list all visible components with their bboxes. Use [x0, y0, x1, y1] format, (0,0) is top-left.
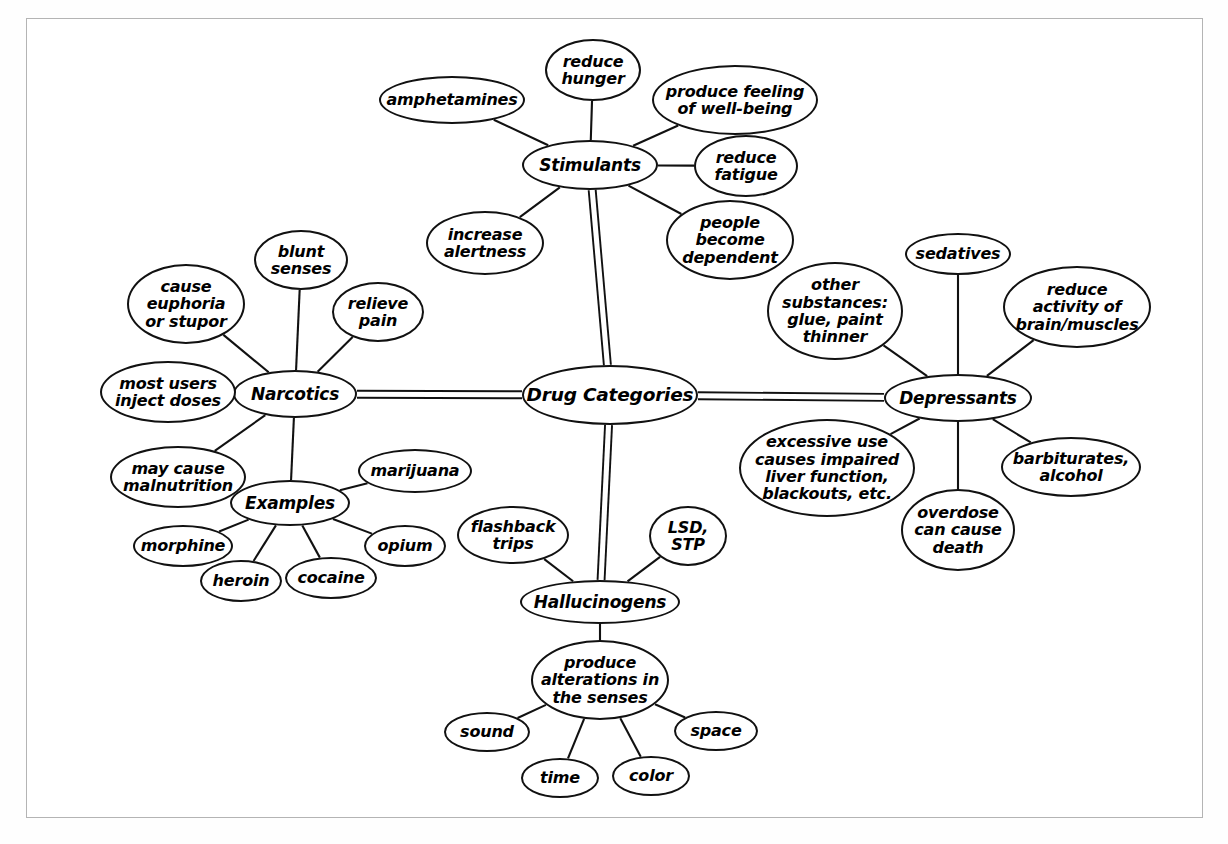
node-label: flashback trips — [471, 518, 556, 553]
node-label: amphetamines — [386, 91, 517, 108]
node-label: opium — [378, 537, 433, 554]
node-barbiturates-alcohol[interactable]: barbiturates, alcohol — [1001, 437, 1141, 497]
node-narcotics[interactable]: Narcotics — [233, 370, 357, 418]
node-label: may cause malnutrition — [123, 460, 233, 495]
node-marijuana[interactable]: marijuana — [358, 449, 472, 493]
node-label: sound — [460, 723, 514, 740]
node-cause-euphoria-or-stupor[interactable]: cause euphoria or stupor — [127, 264, 245, 344]
node-label: LSD, STP — [668, 519, 708, 554]
node-label: time — [540, 769, 580, 786]
node-label: Depressants — [899, 389, 1017, 407]
node-other-substances[interactable]: other substances: glue, paint thinner — [767, 262, 903, 360]
node-sedatives[interactable]: sedatives — [905, 233, 1011, 275]
node-label: Examples — [245, 494, 335, 512]
node-label: excessive use causes impaired liver func… — [755, 433, 899, 502]
node-overdose-can-cause-death[interactable]: overdose can cause death — [901, 489, 1015, 571]
node-label: cause euphoria or stupor — [145, 278, 227, 330]
node-examples[interactable]: Examples — [230, 480, 350, 526]
node-flashback-trips[interactable]: flashback trips — [457, 506, 569, 564]
node-time[interactable]: time — [521, 758, 599, 798]
node-sound[interactable]: sound — [444, 712, 530, 752]
node-stimulants[interactable]: Stimulants — [522, 140, 658, 190]
node-most-users-inject-doses[interactable]: most users inject doses — [100, 361, 236, 423]
node-reduce-hunger[interactable]: reduce hunger — [545, 39, 641, 101]
node-space[interactable]: space — [674, 711, 758, 751]
node-label: most users inject doses — [115, 375, 221, 410]
node-people-become-dependent[interactable]: people become dependent — [666, 200, 794, 280]
node-label: reduce fatigue — [714, 149, 777, 184]
node-label: reduce activity of brain/muscles — [1015, 281, 1138, 333]
node-label: sedatives — [916, 245, 1001, 262]
node-label: increase alertness — [444, 226, 526, 261]
node-label: Hallucinogens — [534, 593, 666, 611]
node-label: Narcotics — [251, 385, 339, 403]
node-label: produce feeling of well-being — [666, 83, 805, 118]
node-label: people become dependent — [682, 214, 778, 266]
node-label: Stimulants — [539, 156, 641, 174]
node-cocaine[interactable]: cocaine — [285, 557, 377, 599]
node-label: relieve pain — [348, 295, 408, 330]
node-produce-feeling-well-being[interactable]: produce feeling of well-being — [652, 65, 818, 135]
node-increase-alertness[interactable]: increase alertness — [426, 211, 544, 275]
node-label: marijuana — [371, 462, 460, 479]
node-lsd-stp[interactable]: LSD, STP — [649, 506, 727, 566]
node-color[interactable]: color — [612, 756, 690, 796]
diagram-canvas: Drug CategoriesStimulantsamphetaminesred… — [0, 0, 1228, 844]
node-morphine[interactable]: morphine — [133, 525, 233, 567]
node-label: reduce hunger — [561, 53, 624, 88]
node-label: produce alterations in the senses — [541, 654, 659, 706]
node-label: cocaine — [297, 569, 364, 586]
node-opium[interactable]: opium — [364, 525, 446, 567]
node-blunt-senses[interactable]: blunt senses — [254, 230, 348, 290]
node-drug-categories[interactable]: Drug Categories — [522, 365, 698, 425]
node-produce-alterations[interactable]: produce alterations in the senses — [531, 640, 669, 720]
node-label: color — [629, 767, 673, 784]
node-label: barbiturates, alcohol — [1013, 450, 1129, 485]
node-hallucinogens[interactable]: Hallucinogens — [520, 580, 680, 624]
node-relieve-pain[interactable]: relieve pain — [332, 282, 424, 342]
node-may-cause-malnutrition[interactable]: may cause malnutrition — [110, 446, 246, 508]
node-label: blunt senses — [271, 243, 331, 278]
node-heroin[interactable]: heroin — [200, 560, 282, 602]
node-label: space — [690, 722, 741, 739]
node-depressants[interactable]: Depressants — [884, 374, 1032, 422]
node-label: morphine — [141, 537, 226, 554]
node-amphetamines[interactable]: amphetamines — [379, 76, 525, 124]
node-label: heroin — [213, 572, 270, 589]
node-reduce-fatigue[interactable]: reduce fatigue — [694, 135, 798, 197]
node-label: overdose can cause death — [914, 504, 1002, 556]
node-excessive-use[interactable]: excessive use causes impaired liver func… — [739, 419, 915, 517]
node-label: Drug Categories — [527, 385, 694, 405]
node-label: other substances: glue, paint thinner — [782, 276, 888, 345]
node-reduce-activity[interactable]: reduce activity of brain/muscles — [1003, 266, 1151, 348]
